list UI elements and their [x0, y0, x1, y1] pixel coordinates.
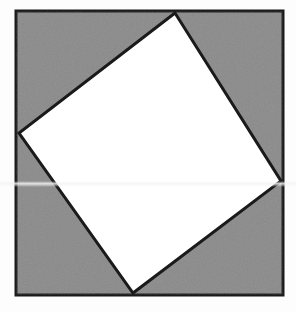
geometric-figure-svg	[0, 0, 296, 312]
figure-canvas	[0, 0, 296, 312]
